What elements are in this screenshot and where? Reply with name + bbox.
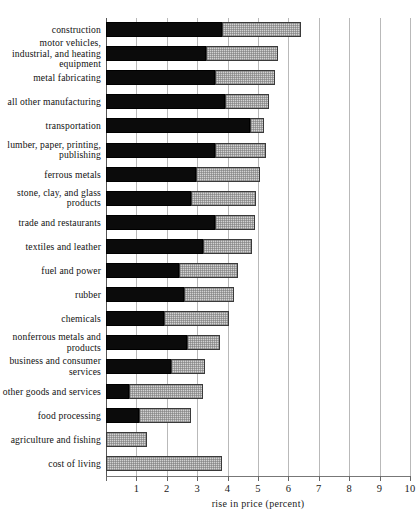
stacked-bar <box>106 22 301 37</box>
x-tick-1 <box>136 476 137 481</box>
bar-segment-dark <box>106 167 196 182</box>
category-label: chemicals <box>0 314 101 324</box>
x-tick-6 <box>288 476 289 481</box>
bar-segment-light <box>191 191 256 206</box>
stacked-bar <box>106 408 191 423</box>
category-label: agriculture and fishing <box>0 435 101 445</box>
x-tick-label-10: 10 <box>398 483 420 494</box>
x-axis-title: rise in price (percent) <box>106 498 410 509</box>
bar-segment-light <box>225 94 269 109</box>
category-label: cost of living <box>0 459 101 469</box>
bar-segment-light <box>187 335 220 350</box>
bar-segment-dark <box>106 215 215 230</box>
stacked-bar <box>106 335 220 350</box>
category-label: nonferrous metals and products <box>0 332 101 353</box>
x-tick-9 <box>380 476 381 481</box>
category-label: business and consumer services <box>0 356 101 377</box>
bar-segment-light <box>179 263 238 278</box>
category-label: rubber <box>0 290 101 300</box>
gridline-9 <box>380 18 381 476</box>
bar-segment-dark <box>106 143 215 158</box>
category-label: trade and restaurants <box>0 218 101 228</box>
category-label: motor vehicles, industrial, and heating … <box>0 38 101 69</box>
bar-segment-dark <box>106 287 184 302</box>
x-tick-7 <box>319 476 320 481</box>
bar-segment-light <box>215 143 265 158</box>
x-tick-3 <box>197 476 198 481</box>
bar-segment-light <box>196 167 260 182</box>
bar-segment-light <box>206 46 277 61</box>
stacked-bar <box>106 94 269 109</box>
x-tick-10 <box>410 476 411 481</box>
x-tick-4 <box>228 476 229 481</box>
category-label: ferrous metals <box>0 170 101 180</box>
stacked-bar <box>106 46 278 61</box>
bar-segment-dark <box>106 311 164 326</box>
x-tick-label-2: 2 <box>155 483 179 494</box>
stacked-bar <box>106 456 222 471</box>
x-tick-2 <box>167 476 168 481</box>
x-tick-8 <box>349 476 350 481</box>
category-label: food processing <box>0 411 101 421</box>
stacked-bar <box>106 384 203 399</box>
category-label: lumber, paper, printing, publishing <box>0 140 101 161</box>
stacked-bar <box>106 215 255 230</box>
bar-segment-light <box>171 359 204 374</box>
bar-segment-light <box>250 118 264 133</box>
gridline-6 <box>288 18 289 476</box>
bar-segment-dark <box>106 46 206 61</box>
bar-segment-light <box>139 408 191 423</box>
category-label: stone, clay, and glass products <box>0 188 101 209</box>
bar-segment-dark <box>106 191 191 206</box>
bar-segment-dark <box>106 70 215 85</box>
stacked-bar <box>106 311 229 326</box>
gridline-7 <box>319 18 320 476</box>
bar-segment-dark <box>106 335 187 350</box>
category-label: textiles and leather <box>0 242 101 252</box>
stacked-bar <box>106 432 147 447</box>
bar-segment-light <box>106 432 147 447</box>
stacked-bar <box>106 287 234 302</box>
bar-segment-light <box>129 384 203 399</box>
bar-segment-dark <box>106 263 179 278</box>
bar-segment-dark <box>106 94 225 109</box>
bar-segment-light <box>222 22 301 37</box>
stacked-bar <box>106 70 275 85</box>
x-tick-label-3: 3 <box>185 483 209 494</box>
bar-segment-dark <box>106 359 171 374</box>
stacked-bar <box>106 191 256 206</box>
x-tick-label-7: 7 <box>307 483 331 494</box>
x-tick-label-6: 6 <box>276 483 300 494</box>
bar-segment-dark <box>106 239 203 254</box>
stacked-bar <box>106 118 264 133</box>
bar-segment-light <box>106 456 222 471</box>
stacked-bar <box>106 263 238 278</box>
category-label: metal fabricating <box>0 73 101 83</box>
stacked-bar <box>106 143 266 158</box>
gridline-8 <box>349 18 350 476</box>
bar-segment-dark <box>106 118 250 133</box>
bar-segment-dark <box>106 22 222 37</box>
category-label: other goods and services <box>0 387 101 397</box>
x-tick-label-1: 1 <box>124 483 148 494</box>
category-label: all other manufacturing <box>0 97 101 107</box>
category-label: transportation <box>0 121 101 131</box>
bar-segment-light <box>215 215 255 230</box>
bar-segment-light <box>164 311 229 326</box>
category-label: fuel and power <box>0 266 101 276</box>
x-tick-5 <box>258 476 259 481</box>
bar-segment-light <box>215 70 274 85</box>
gridline-10 <box>410 18 411 476</box>
x-tick-label-8: 8 <box>337 483 361 494</box>
x-tick-label-9: 9 <box>368 483 392 494</box>
category-label: construction <box>0 25 101 35</box>
bar-segment-light <box>203 239 252 254</box>
bar-segment-light <box>184 287 234 302</box>
stacked-bar <box>106 167 260 182</box>
bar-segment-dark <box>106 384 129 399</box>
bar-segment-dark <box>106 408 139 423</box>
x-tick-label-5: 5 <box>246 483 270 494</box>
stacked-bar <box>106 239 252 254</box>
gridline-5 <box>258 18 259 476</box>
